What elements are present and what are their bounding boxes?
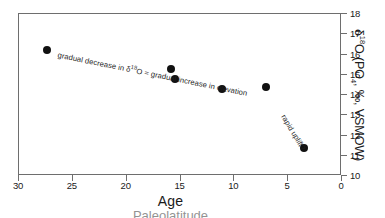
y-axis-tick-label: 18 — [350, 8, 360, 19]
plot-area: gradual decrease in δ18O = gradual incre… — [18, 13, 341, 175]
y-axis-tick — [341, 33, 347, 34]
y-axis-tick — [341, 135, 347, 136]
y-axis-delta: δ — [352, 29, 366, 36]
data-point — [262, 83, 270, 91]
x-axis-tick-label: 25 — [67, 180, 77, 191]
x-axis-tick-label: 15 — [174, 180, 184, 191]
x-axis-tick-label: 10 — [228, 180, 238, 191]
y-axis-tick — [341, 13, 347, 14]
x-axis-tick-label: 0 — [338, 180, 343, 191]
y-axis-tick — [341, 114, 347, 115]
y-axis-title: δ18O (PO4, ‰, VSMOW) — [349, 29, 367, 161]
x-axis-tick-label: 30 — [13, 180, 23, 191]
sub-caption: Paleolatitude — [0, 208, 341, 218]
annotation-gradual-trend: gradual decrease in δ18O = gradual incre… — [57, 49, 249, 98]
chart-figure: gradual decrease in δ18O = gradual incre… — [0, 0, 385, 218]
y-axis-oxygen: O — [352, 44, 366, 54]
y-axis-paren-open: (PO — [352, 54, 366, 79]
y-axis-isotope-mass: 18 — [358, 36, 367, 44]
x-axis-tick-label: 5 — [285, 180, 290, 191]
y-axis-tick — [341, 54, 347, 55]
y-axis-tick — [341, 94, 347, 95]
y-axis-tick-label: 10 — [350, 170, 360, 181]
annotation-gradual-suffix: O = gradual increase in elevation — [136, 67, 248, 98]
x-axis-tick-label: 20 — [121, 180, 131, 191]
y-axis-tick — [341, 155, 347, 156]
annotation-gradual-prefix: gradual decrease in δ — [57, 51, 131, 75]
annotation-rapid-uplift: rapid uplift? — [279, 113, 307, 152]
y-axis-tick — [341, 74, 347, 75]
y-axis-units: , ‰, VSMOW) — [352, 83, 366, 161]
data-point — [43, 46, 51, 54]
x-axis-title: Age — [0, 193, 341, 209]
